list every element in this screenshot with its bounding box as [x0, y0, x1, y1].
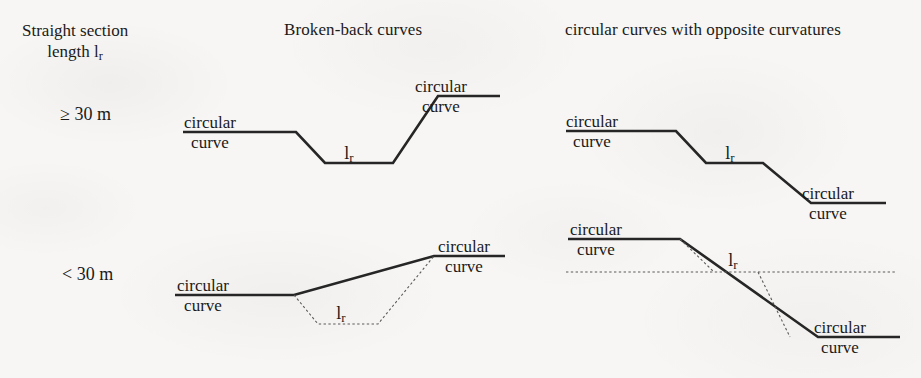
curve-label-broken-back-ge-30m-0: curve [191, 133, 229, 154]
figure-canvas: Straight section length lr Broken-back c… [0, 0, 921, 378]
circular-label-broken-back-ge-30m-1: circular [415, 77, 467, 98]
lr-label-subscript: r [730, 150, 734, 165]
circular-label-opposite-lt-30m-1: circular [814, 318, 866, 339]
corner-label-subscript: r [99, 49, 103, 63]
lr-label-subscript: r [349, 150, 353, 165]
curve-label-broken-back-lt-30m-1: curve [445, 257, 483, 278]
curve-label-broken-back-lt-30m-0: curve [184, 296, 222, 317]
straight-section-length-header: Straight section length lr [22, 20, 128, 64]
lr-label-opposite-lt-30m-0: lr [728, 250, 737, 272]
curve-label-opposite-lt-30m-1: curve [821, 338, 859, 359]
lr-label-broken-back-ge-30m-0: lr [344, 143, 353, 165]
circular-label-broken-back-ge-30m-0: circular [184, 113, 236, 134]
circular-label-broken-back-lt-30m-1: circular [438, 237, 490, 258]
corner-label-line2-text: length l [47, 42, 98, 61]
circular-label-broken-back-lt-30m-0: circular [177, 276, 229, 297]
row-label-lt-30m: < 30 m [62, 264, 113, 284]
lr-label-subscript: r [733, 257, 737, 272]
circular-label-opposite-ge-30m-0: circular [566, 112, 618, 133]
lr-label-opposite-ge-30m-0: lr [725, 143, 734, 165]
column-header-broken-back: Broken-back curves [284, 20, 422, 39]
lr-label-subscript: r [341, 310, 345, 325]
curve-label-opposite-lt-30m-0: curve [577, 240, 615, 261]
curve-label-opposite-ge-30m-1: curve [809, 204, 847, 225]
corner-label-line1: Straight section [22, 21, 128, 40]
column-header-opposite-curvatures: circular curves with opposite curvatures [565, 20, 841, 39]
text-layer: Straight section length lr Broken-back c… [0, 0, 921, 378]
circular-label-opposite-lt-30m-0: circular [570, 220, 622, 241]
circular-label-opposite-ge-30m-1: circular [802, 184, 854, 205]
corner-label-line2: length lr [47, 42, 103, 61]
row-label-ge-30m: ≥ 30 m [60, 104, 111, 124]
curve-label-broken-back-ge-30m-1: curve [422, 97, 460, 118]
curve-label-opposite-ge-30m-0: curve [573, 132, 611, 153]
lr-label-broken-back-lt-30m-0: lr [336, 303, 345, 325]
